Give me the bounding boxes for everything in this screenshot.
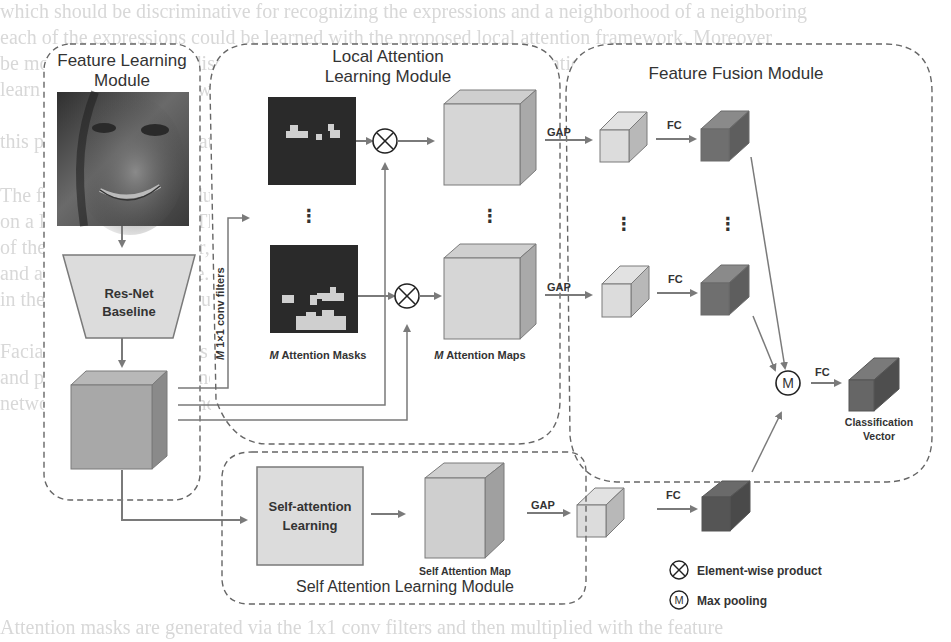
- attention-maps-label: M Attention Maps: [434, 349, 525, 361]
- svg-text:M: M: [674, 594, 683, 606]
- self-attention-map-cube: [425, 463, 504, 558]
- classification-vector-label: Classification: [845, 416, 913, 428]
- element-wise-product-icon: [373, 129, 397, 153]
- local-attention-title-2: Learning Module: [325, 67, 452, 86]
- map-ellipsis: ⋮: [481, 206, 499, 226]
- fc-label-top: FC: [667, 119, 682, 131]
- resnet-label-2: Baseline: [102, 304, 155, 319]
- max-pooling-icon: M: [670, 591, 688, 609]
- svg-text:M: M: [782, 375, 794, 391]
- vector-ellipsis: ⋮: [615, 214, 633, 234]
- mask-ellipsis: ⋮: [300, 206, 318, 226]
- element-wise-product-icon: [670, 561, 688, 579]
- attention-map-cube-bottom: [444, 244, 536, 339]
- feature-map-cube: [71, 371, 167, 469]
- feature-learning-title-2: Module: [94, 71, 150, 90]
- max-pooling-icon: M: [776, 371, 800, 395]
- attention-masks-label: M Attention Masks: [270, 349, 367, 361]
- self-attention-title: Self Attention Learning Module: [296, 578, 514, 595]
- local-attention-title: Local Attention: [332, 47, 444, 66]
- fc-ellipsis: ⋮: [719, 214, 737, 234]
- attention-mask-bottom: [270, 245, 358, 333]
- attention-map-cube-top: [444, 90, 536, 185]
- legend-label-max: Max pooling: [697, 594, 767, 608]
- element-wise-product-icon: [395, 284, 419, 308]
- attention-mask-top: [268, 97, 356, 185]
- resnet-baseline-block: Res-Net Baseline: [63, 255, 195, 338]
- self-attention-map-label: Self Attention Map: [419, 565, 511, 577]
- input-face-image: [57, 92, 189, 235]
- gap-label-middle: GAP: [547, 281, 571, 293]
- fc-label-middle: FC: [668, 273, 683, 285]
- gap-label-bottom: GAP: [531, 499, 555, 511]
- self-attention-block-label: Self-attention: [268, 499, 351, 514]
- feature-learning-title: Feature Learning: [57, 51, 186, 70]
- fc-vector-bottom: [702, 481, 750, 531]
- resnet-label: Res-Net: [104, 286, 154, 301]
- self-attention-learning-block: Self-attention Learning: [257, 467, 363, 565]
- feature-fusion-title: Feature Fusion Module: [649, 64, 824, 83]
- architecture-diagram: Feature Learning Module Res-Net Baseline: [0, 0, 951, 642]
- fc-label-final: FC: [815, 366, 830, 378]
- legend-label-product: Element-wise product: [697, 564, 822, 578]
- gap-label-top: GAP: [547, 126, 571, 138]
- conv-filters-label: M 1×1 conv filters: [214, 267, 226, 360]
- fc-label-bottom: FC: [666, 489, 681, 501]
- self-attention-block-label-2: Learning: [283, 518, 338, 533]
- classification-vector-label-2: Vector: [863, 430, 895, 442]
